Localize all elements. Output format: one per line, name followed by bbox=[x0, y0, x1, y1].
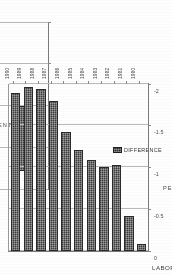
cat-label-1988: 1988 bbox=[30, 68, 35, 79]
bar-1989 bbox=[24, 87, 33, 251]
upper-gridline--0.8 bbox=[0, 22, 48, 23]
tick-0 bbox=[148, 251, 151, 252]
cat-label-1983: 1983 bbox=[93, 68, 98, 79]
cat-tick-1983 bbox=[101, 81, 102, 84]
cat-tick-1986 bbox=[63, 81, 64, 84]
cat-tick-1982 bbox=[114, 81, 115, 84]
ticklabel--1: -1 bbox=[154, 171, 159, 177]
cat-label-1987: 1987 bbox=[42, 68, 47, 79]
cat-tick-1981 bbox=[126, 81, 127, 84]
ticklabel--2: -2 bbox=[154, 88, 159, 94]
cat-label-1982: 1982 bbox=[105, 68, 110, 79]
cat-tick-1985 bbox=[76, 81, 77, 84]
cat-label-1981: 1981 bbox=[118, 68, 123, 79]
scanned-figure-page: 0.8 0.4 0 -0.4 -0.8 PERCENT LABOR FORCE bbox=[0, 0, 172, 274]
bar-1983 bbox=[99, 167, 108, 251]
cat-label-1985: 1985 bbox=[68, 68, 73, 79]
tick--0.5 bbox=[148, 209, 151, 210]
bar-1982 bbox=[112, 165, 121, 251]
chart-title: LABOR FORCE bbox=[152, 264, 172, 271]
ticklabel--0.5: -0.5 bbox=[154, 213, 164, 219]
cat-tick-1988 bbox=[38, 81, 39, 84]
labor-force-chart: LABOR FORCE bbox=[0, 62, 172, 274]
cat-label-1990: 1990 bbox=[5, 68, 10, 79]
tick--2 bbox=[148, 84, 151, 85]
cat-label-1989: 1989 bbox=[17, 68, 22, 79]
bar-1985 bbox=[74, 150, 83, 251]
plot-area: DIFFERENCE bbox=[8, 84, 148, 252]
cat-tick-1990 bbox=[13, 81, 14, 84]
upper-tick--0.8 bbox=[48, 22, 51, 23]
bar-1984 bbox=[87, 160, 96, 251]
tick--1 bbox=[148, 167, 151, 168]
bar-1981 bbox=[124, 216, 133, 251]
labor-force-chart-panel: LABOR FORCE bbox=[0, 62, 172, 274]
bar-1988 bbox=[36, 89, 45, 251]
cat-tick-1987 bbox=[51, 81, 52, 84]
bar-1980 bbox=[137, 244, 146, 251]
bar-1990 bbox=[11, 93, 20, 251]
cat-label-1984: 1984 bbox=[80, 68, 85, 79]
cat-tick-1980 bbox=[139, 81, 140, 84]
legend-swatch-difference bbox=[113, 147, 122, 153]
legend: DIFFERENCE bbox=[113, 147, 162, 153]
cat-label-1986: 1986 bbox=[55, 68, 60, 79]
tick--1.5 bbox=[148, 125, 151, 126]
cat-label-1980: 1980 bbox=[131, 68, 136, 79]
bar-1986 bbox=[61, 132, 70, 251]
bar-1987 bbox=[49, 101, 58, 251]
ticklabel-0: 0 bbox=[154, 255, 157, 261]
cat-tick-1989 bbox=[25, 81, 26, 84]
gridline--2 bbox=[9, 83, 148, 84]
value-axis-title: PERCENT bbox=[163, 185, 172, 191]
ticklabel--1.5: -1.5 bbox=[154, 129, 164, 135]
cat-tick-1984 bbox=[88, 81, 89, 84]
legend-label-difference: DIFFERENCE bbox=[124, 147, 162, 153]
